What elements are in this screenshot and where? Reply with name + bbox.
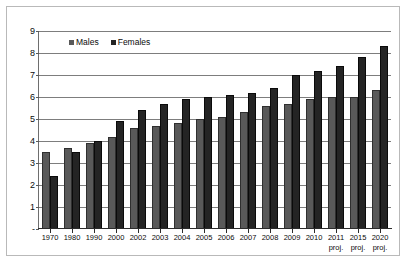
y-axis-tick-label: 3 <box>30 159 35 168</box>
bar-group <box>171 31 193 229</box>
y-axis-tick <box>36 229 39 230</box>
bar-females <box>138 110 146 229</box>
bar-females <box>226 95 234 229</box>
bar-females <box>50 176 58 229</box>
bar-males <box>64 148 72 229</box>
x-axis-label: 1970 <box>39 233 61 253</box>
bar-females <box>380 46 388 229</box>
bar-group <box>39 31 61 229</box>
x-axis-label: 2007 <box>237 233 259 253</box>
bar-males <box>262 106 270 229</box>
x-axis-sublabel: proj. <box>369 243 391 253</box>
x-axis-label: 2005 <box>193 233 215 253</box>
x-axis-label: 2003 <box>149 233 171 253</box>
bar-females <box>160 104 168 229</box>
y-axis-tick-label: 9 <box>30 27 35 36</box>
bar-males <box>328 97 336 229</box>
bar-males <box>372 90 380 229</box>
bar-males <box>196 119 204 229</box>
x-axis-label: 2002 <box>127 233 149 253</box>
bar-males <box>152 126 160 229</box>
y-axis-tick-label: 8 <box>30 49 35 58</box>
bar-group <box>303 31 325 229</box>
y-axis-tick-label: 2 <box>30 181 35 190</box>
bar-group <box>105 31 127 229</box>
y-axis-tick-label: 7 <box>30 71 35 80</box>
x-axis-label: 2006 <box>215 233 237 253</box>
bar-group <box>325 31 347 229</box>
bar-females <box>314 71 322 229</box>
chart-frame: Males Females -123456789 197019801990200… <box>6 6 400 256</box>
bar-group <box>237 31 259 229</box>
x-axis-label: 2015proj. <box>347 233 369 253</box>
bar-males <box>174 123 182 229</box>
bar-females <box>94 141 102 229</box>
bar-males <box>240 112 248 229</box>
y-axis-tick-label: 6 <box>30 93 35 102</box>
bar-females <box>336 66 344 229</box>
bar-males <box>42 152 50 229</box>
bar-males <box>130 128 138 229</box>
bar-group <box>215 31 237 229</box>
bar-females <box>204 97 212 229</box>
bar-group <box>83 31 105 229</box>
bar-group <box>127 31 149 229</box>
bar-males <box>284 104 292 229</box>
bar-females <box>292 75 300 229</box>
bar-group <box>193 31 215 229</box>
bar-group <box>259 31 281 229</box>
x-axis-label: 2011proj. <box>325 233 347 253</box>
bar-females <box>116 121 124 229</box>
bar-females <box>270 88 278 229</box>
bar-females <box>72 152 80 229</box>
bar-males <box>306 99 314 229</box>
x-axis-line <box>38 228 392 229</box>
bar-males <box>108 137 116 229</box>
x-axis-sublabel: proj. <box>347 243 369 253</box>
bar-females <box>358 57 366 229</box>
bar-males <box>86 143 94 229</box>
bar-group <box>369 31 391 229</box>
x-axis-label: 2009 <box>281 233 303 253</box>
x-axis-label: 1990 <box>83 233 105 253</box>
bar-group <box>347 31 369 229</box>
x-axis-label: 2010 <box>303 233 325 253</box>
x-axis-label: 2020proj. <box>369 233 391 253</box>
bar-females <box>182 99 190 229</box>
x-axis-label: 2008 <box>259 233 281 253</box>
x-axis-label: 1980 <box>61 233 83 253</box>
x-axis-label: 2000 <box>105 233 127 253</box>
y-axis-tick-label: - <box>32 225 35 234</box>
bar-group <box>61 31 83 229</box>
bar-groups <box>39 31 391 229</box>
bar-males <box>350 97 358 229</box>
plot-area: -123456789 <box>39 31 391 229</box>
y-axis-tick-label: 4 <box>30 137 35 146</box>
y-axis-tick-label: 5 <box>30 115 35 124</box>
bar-group <box>149 31 171 229</box>
bar-males <box>218 117 226 229</box>
x-axis-label: 2004 <box>171 233 193 253</box>
x-axis-labels: 1970198019902000200220032004200520062007… <box>39 233 391 253</box>
bar-females <box>248 93 256 229</box>
bar-group <box>281 31 303 229</box>
y-axis-tick-label: 1 <box>30 203 35 212</box>
x-axis-sublabel: proj. <box>325 243 347 253</box>
